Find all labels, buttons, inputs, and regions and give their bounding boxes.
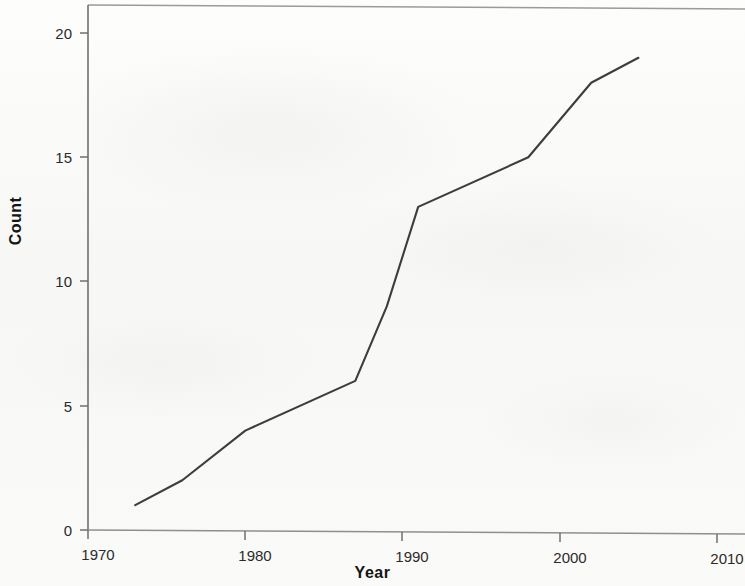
x-axis-line <box>88 530 745 534</box>
y-axis-title: Count <box>7 181 25 261</box>
y-tick-label-5: 5 <box>32 398 72 415</box>
line-chart-plot <box>0 0 745 586</box>
y-tick-label-10: 10 <box>32 273 72 290</box>
x-tick-label-1980: 1980 <box>238 547 271 564</box>
x-axis-title: Year <box>0 564 745 582</box>
y-tick-label-0: 0 <box>32 522 72 539</box>
chart-figure: 20 15 10 5 0 1970 1980 1990 2000 2010 Co… <box>0 0 745 586</box>
y-axis-ticks <box>80 33 88 530</box>
y-tick-label-20: 20 <box>32 25 72 42</box>
x-tick-label-1990: 1990 <box>395 548 428 565</box>
x-tick-label-1970: 1970 <box>81 546 114 563</box>
y-tick-label-15: 15 <box>32 149 72 166</box>
plot-top-border <box>88 5 745 9</box>
data-series-line <box>135 58 638 505</box>
